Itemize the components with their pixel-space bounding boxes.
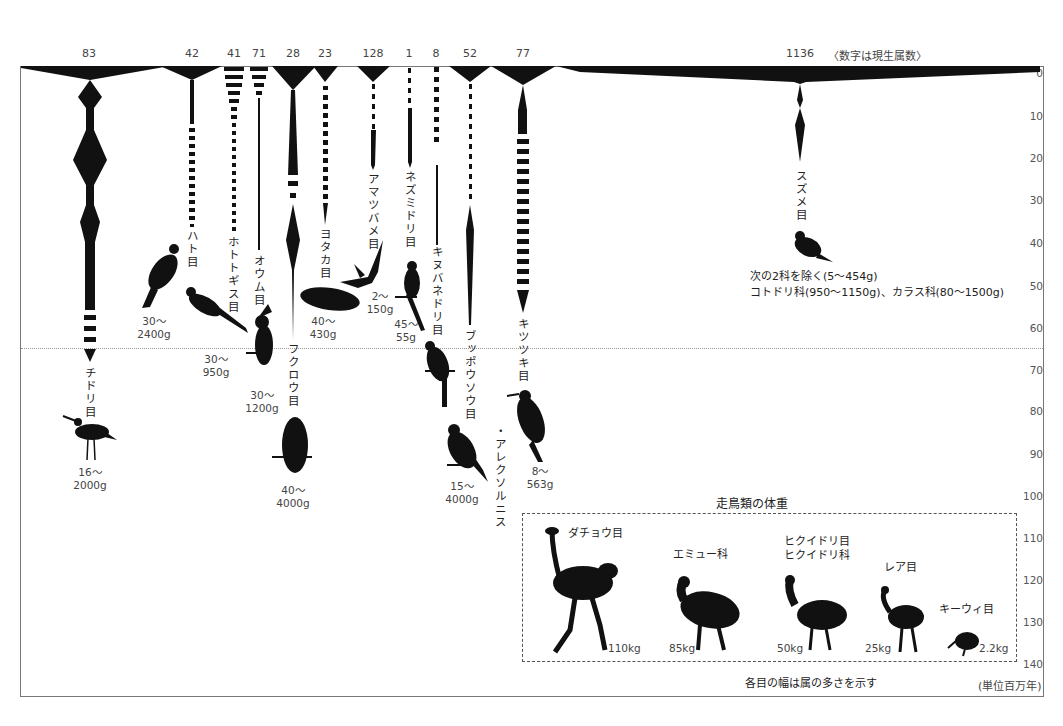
weight-cuculiformes: 30〜 950g — [203, 353, 230, 379]
ratite-name-cassowary: ヒクイドリ目 ヒクイドリ科 — [784, 535, 850, 563]
footnote: 各目の幅は属の多さを示す — [745, 676, 877, 691]
weight-columbiformes: 30〜 2400g — [137, 315, 170, 341]
weight-piciformes: 8〜 563g — [527, 465, 554, 491]
ratite-weight-rhea: 25kg — [865, 642, 891, 654]
charadriiformes-wedge — [21, 66, 170, 80]
order-label-piciformes: キツツキ目 — [517, 318, 529, 383]
ratite-name-kiwi: キーウィ目 — [939, 603, 994, 617]
weight-psittaciformes: 30〜 1200g — [245, 389, 278, 415]
weight-caprimulgiformes: 40〜 430g — [310, 315, 337, 341]
weight-charadriiformes: 16〜 2000g — [73, 466, 106, 492]
order-label-coraciiformes: ブッポウソウ目 — [464, 330, 476, 421]
order-label-apodiformes: アマツバメ目 — [367, 173, 379, 251]
passeriformes-note-line2: コトドリ科(950〜1150g)、カラス科(80〜1500g) — [750, 285, 1004, 300]
extinct-order-label-alexornis: ・アレクソルニス — [494, 425, 506, 529]
ratite-weight-emu: 85kg — [669, 642, 695, 654]
order-label-trogoniformes: キヌバネドリ目 — [431, 246, 443, 337]
order-label-coliiformes: ネズミドリ目 — [404, 171, 416, 249]
order-label-psittaciformes: オウム目 — [253, 255, 265, 307]
order-label-cuculiformes: ホトトギス目 — [227, 236, 239, 314]
weight-coliiformes: 45〜 55g — [394, 318, 417, 344]
order-label-charadriiformes: チドリ目 — [84, 367, 96, 419]
ratite-weight-ostrich: 110kg — [608, 642, 641, 654]
ratite-name-rhea: レア目 — [884, 561, 917, 575]
weight-coraciiformes: 15〜 4000g — [445, 480, 478, 506]
ratites-title: 走鳥類の体重 — [716, 494, 788, 511]
order-label-strigiformes: フクロウ目 — [287, 343, 299, 408]
passeriformes-note-line1: 次の2科を除く(5〜454g) — [750, 269, 878, 284]
ratite-name-emu: エミュー科 — [673, 548, 728, 562]
weight-apodiformes: 2〜 150g — [367, 290, 394, 316]
strigiformes-wedge — [272, 66, 316, 90]
ratite-weight-cassowary: 50kg — [777, 642, 803, 654]
passeriformes-wedge — [556, 66, 1040, 84]
ratite-name-ostrich: ダチョウ目 — [568, 527, 623, 541]
order-label-caprimulgiformes: ヨタカ目 — [319, 228, 331, 280]
order-label-columbiformes: ハト目 — [186, 230, 198, 269]
bird-phylogeny-diagram: 83 42 41 71 28 23 128 1 8 52 77 1136 〈数字… — [0, 0, 1063, 726]
weight-strigiformes: 40〜 4000g — [276, 484, 309, 510]
ratite-weight-kiwi: 2.2kg — [979, 642, 1008, 654]
order-label-passeriformes: スズメ目 — [795, 170, 807, 222]
